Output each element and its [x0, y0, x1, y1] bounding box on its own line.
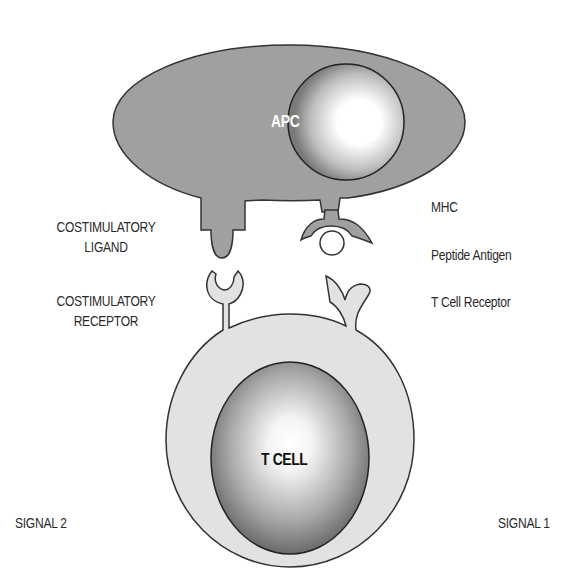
costimulatory-receptor-line2: RECEPTOR [49, 311, 163, 331]
diagram-canvas: APC T CELL COSTIMULATORY LIGAND COSTIMUL… [0, 0, 588, 584]
costimulatory-ligand-label: COSTIMULATORY LIGAND [49, 217, 163, 257]
t-cell-receptor-label: T Cell Receptor [431, 292, 511, 312]
signal-2-label: SIGNAL 2 [15, 513, 67, 533]
apc-cell [113, 45, 465, 258]
costimulatory-receptor-label: COSTIMULATORY RECEPTOR [49, 291, 163, 331]
signal-1-label: SIGNAL 1 [498, 513, 550, 533]
peptide-antigen-label: Peptide Antigen [431, 245, 511, 265]
t-cell [166, 271, 414, 567]
t-cell-label: T CELL [261, 450, 307, 470]
costimulatory-ligand-line1: COSTIMULATORY [49, 217, 163, 237]
apc-nucleus [288, 64, 404, 180]
peptide-antigen [320, 231, 344, 255]
costimulatory-receptor-line1: COSTIMULATORY [49, 291, 163, 311]
apc-label: APC [271, 112, 299, 132]
apc-membrane [113, 45, 465, 258]
costimulatory-ligand-line2: LIGAND [49, 237, 163, 257]
mhc-label: MHC [431, 197, 458, 217]
